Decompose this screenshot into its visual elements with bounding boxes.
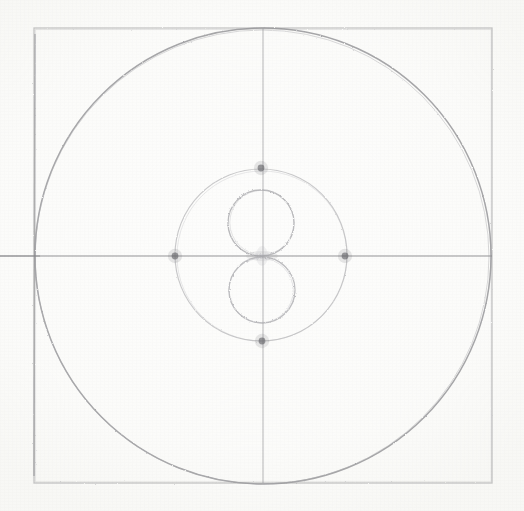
dot-left bbox=[172, 253, 179, 260]
dot-top bbox=[258, 165, 265, 172]
dot-right bbox=[342, 253, 349, 260]
dot-bottom bbox=[259, 338, 266, 345]
pencil-drawing bbox=[0, 0, 524, 511]
figure-eight-lower-circle-ghost bbox=[229, 258, 293, 322]
figure-eight-upper-circle-ghost bbox=[230, 190, 294, 254]
centre-smudge bbox=[246, 246, 278, 266]
centre-smudge-blot-vertical bbox=[256, 246, 268, 266]
sketch-canvas bbox=[0, 0, 524, 511]
centerline-axes bbox=[0, 28, 492, 483]
